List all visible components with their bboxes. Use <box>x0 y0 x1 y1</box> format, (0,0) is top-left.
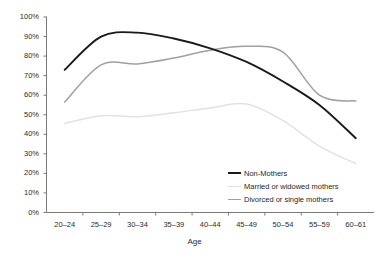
x-axis-tick-label: 60–61 <box>337 220 375 229</box>
legend-swatch-line-icon <box>228 199 241 200</box>
x-axis-title: Age <box>0 237 389 246</box>
y-axis-tick-label: 100% <box>11 12 39 21</box>
series-line <box>65 32 356 138</box>
y-axis-tick-label: 20% <box>11 168 39 177</box>
y-axis-tick-label: 10% <box>11 188 39 197</box>
y-axis-tick-label: 80% <box>11 51 39 60</box>
legend-item: Non-Mothers <box>228 167 388 179</box>
y-axis-tick-label: 0% <box>11 208 39 217</box>
legend-item: Married or widowed mothers <box>228 180 388 192</box>
series-line <box>65 103 356 163</box>
x-axis-tick-label: 50–54 <box>264 220 302 229</box>
y-axis-tick-label: 60% <box>11 90 39 99</box>
legend-swatch-line-icon <box>228 186 241 187</box>
y-axis-tick-label: 70% <box>11 71 39 80</box>
line-chart: 0%10%20%30%40%50%60%70%80%90%100% 20–242… <box>0 0 389 263</box>
series-line <box>65 46 356 102</box>
legend-item-label: Non-Mothers <box>244 169 287 178</box>
x-axis-tick-label: 40–44 <box>191 220 229 229</box>
x-axis-tick-label: 55–59 <box>300 220 338 229</box>
legend-swatch-line-icon <box>228 172 241 174</box>
y-axis-tick-label: 40% <box>11 129 39 138</box>
legend-item-label: Married or widowed mothers <box>244 182 339 191</box>
x-axis-tick-label: 45–49 <box>228 220 266 229</box>
legend-item-label: Divorced or single mothers <box>244 195 333 204</box>
x-axis-tick-label: 35–39 <box>155 220 193 229</box>
legend-item: Divorced or single mothers <box>228 193 388 205</box>
chart-legend: Non-MothersMarried or widowed mothersDiv… <box>228 167 388 206</box>
y-axis-tick-label: 50% <box>11 110 39 119</box>
x-axis-tick-label: 20–24 <box>46 220 84 229</box>
x-axis-tick-label: 25–29 <box>82 220 120 229</box>
x-axis-tick-label: 30–34 <box>118 220 156 229</box>
y-axis-tick-label: 90% <box>11 32 39 41</box>
y-axis-tick-label: 30% <box>11 149 39 158</box>
